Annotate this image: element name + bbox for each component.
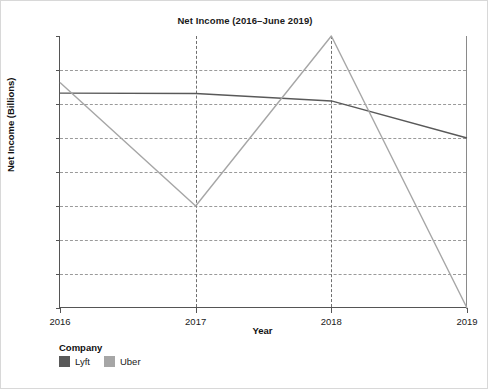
chart-title: Net Income (2016–June 2019) [1,15,488,26]
chart-figure: Net Income (2016–June 2019) Net Income (… [0,0,488,389]
legend-label: Lyft [75,356,90,367]
legend-item-uber[interactable]: Uber [104,356,141,367]
legend-item-lyft[interactable]: Lyft [59,356,90,367]
x-axis-tick-mark [467,308,468,313]
plot-area: $1$0$−1$−2$−3$−4$−5$−6$−7 20162017201820… [59,36,466,308]
legend-label: Uber [120,356,141,367]
series-line-uber [60,36,467,308]
y-axis-title: Net Income (Billions) [5,78,16,172]
series-line-lyft [60,93,467,138]
series-lines [60,36,467,308]
x-axis-title: Year [59,325,466,336]
legend-title: Company [59,342,141,353]
legend-items: LyftUber [59,356,141,367]
x-axis-tick-mark [331,308,332,313]
legend: Company LyftUber [59,342,141,367]
x-axis-tick-mark [60,308,61,313]
legend-swatch-icon [104,356,115,367]
legend-swatch-icon [59,356,70,367]
x-axis-tick-mark [196,308,197,313]
